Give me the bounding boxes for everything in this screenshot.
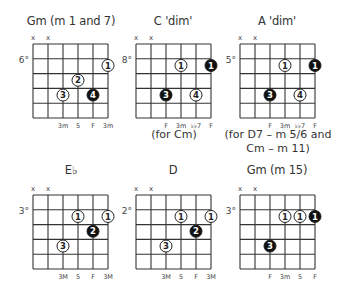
svg-text:1: 1 bbox=[282, 212, 288, 222]
fretboard-grid: 1113xx3°F3m5F bbox=[0, 0, 342, 293]
finger-dot-filled: 3 bbox=[264, 240, 276, 252]
muted-string-marker: x bbox=[253, 185, 257, 193]
finger-dot-open: 1 bbox=[279, 210, 291, 222]
finger-dot-open: 1 bbox=[294, 210, 306, 222]
interval-label: 3m bbox=[280, 273, 290, 281]
interval-label: F bbox=[268, 273, 272, 281]
muted-string-marker: x bbox=[238, 185, 242, 193]
svg-text:1: 1 bbox=[312, 212, 318, 222]
interval-label: F bbox=[313, 273, 317, 281]
svg-text:1: 1 bbox=[297, 212, 303, 222]
fret-position-label: 3° bbox=[226, 206, 236, 216]
finger-dot-filled: 1 bbox=[309, 210, 321, 222]
svg-text:3: 3 bbox=[267, 241, 273, 251]
interval-label: 5 bbox=[298, 273, 302, 281]
